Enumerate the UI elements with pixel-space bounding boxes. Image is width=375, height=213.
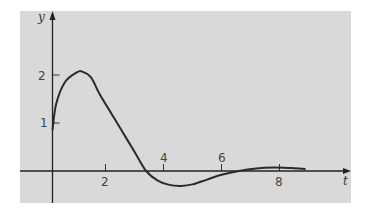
plot-background <box>20 11 351 203</box>
chart: y t 2 4 6 8 1 2 <box>0 0 375 213</box>
y-tick-label-2: 2 <box>38 69 46 83</box>
y-axis-label: y <box>37 10 45 24</box>
y-tick-label-1: 1 <box>40 116 48 130</box>
x-tick-label-4: 4 <box>160 151 168 165</box>
x-tick-label-8: 8 <box>275 175 283 189</box>
x-tick-label-2: 2 <box>101 175 109 189</box>
x-axis-label: t <box>343 174 348 188</box>
x-tick-label-6: 6 <box>218 151 226 165</box>
